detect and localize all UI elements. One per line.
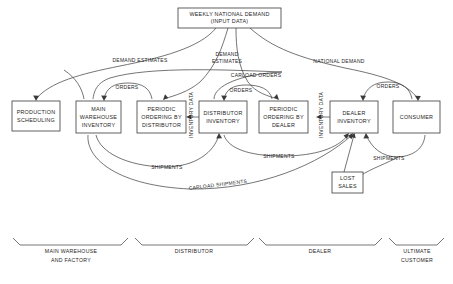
edge-label-carload-orders: CARLOAD ORDERS — [231, 72, 282, 78]
node-periodic-ordering-by-dealer[interactable]: PERIODIC ORDERING BY DEALER — [259, 101, 308, 133]
bracket-line-main-warehouse — [13, 238, 128, 245]
node-main-warehouse-inventory[interactable]: MAIN WAREHOUSE INVENTORY — [76, 101, 121, 133]
node-dealer-inventory[interactable]: DEALER INVENTORY — [330, 101, 378, 133]
edge-label-national-demand: NATIONAL DEMAND — [313, 58, 364, 64]
edge-label-demand-estimates-left: DEMAND ESTIMATES — [112, 57, 167, 63]
edge-label-demand-estimates-center-line2: ESTIMATES — [212, 58, 243, 64]
edge-main-warehouse-up-left — [64, 70, 84, 99]
node-label-main-warehouse-line2: WAREHOUSE — [80, 114, 118, 120]
arrowhead-orders-dealer-inventory — [360, 96, 366, 101]
node-periodic-ordering-by-distributor[interactable]: PERIODIC ORDERING BY DISTRIBUTOR — [137, 101, 186, 133]
edge-label-shipments-2: SHIPMENTS — [263, 153, 295, 159]
edge-label-inventory-data-1: INVENTORY DATA — [188, 91, 194, 138]
arrowhead-shipments-distributor — [216, 133, 222, 139]
edge-label-orders-2: ORDERS — [230, 87, 253, 93]
node-label-consumer: CONSUMER — [400, 114, 433, 120]
arrowhead-orders-main-warehouse — [101, 96, 107, 101]
arrowhead-national-demand-consumer — [415, 96, 421, 101]
node-label-weekly-national-demand-line1: WEEKLY NATIONAL DEMAND — [189, 11, 269, 17]
node-label-lost-sales-line2: SALES — [338, 183, 357, 189]
edge-shipments-warehouse-to-distributor — [96, 135, 219, 167]
node-label-distributor-inventory-line1: DISTRIBUTOR — [203, 110, 242, 116]
bracket-dealer: DEALER — [259, 238, 382, 254]
edge-shipments-dealer-to-consumer — [366, 135, 425, 157]
group-label-dealer: DEALER — [309, 248, 332, 254]
group-label-main-warehouse-line2: AND FACTORY — [51, 257, 91, 263]
diagram-canvas: WEEKLY NATIONAL DEMAND (INPUT DATA) PROD… — [0, 0, 453, 284]
bracket-main-warehouse-and-factory: MAIN WAREHOUSE AND FACTORY — [13, 238, 128, 263]
node-label-periodic-distributor-line3: DISTRIBUTOR — [142, 122, 181, 128]
group-label-distributor: DISTRIBUTOR — [175, 248, 213, 254]
edge-label-carload-shipments: CARLOAD SHIPMENTS — [188, 178, 248, 191]
node-weekly-national-demand[interactable]: WEEKLY NATIONAL DEMAND (INPUT DATA) — [178, 8, 281, 28]
arrowhead-demand-estimates-production — [33, 96, 39, 101]
node-distributor-inventory[interactable]: DISTRIBUTOR INVENTORY — [199, 101, 247, 133]
node-label-dealer-inventory-line1: DEALER — [342, 110, 365, 116]
edge-label-orders-1: ORDERS — [116, 84, 139, 90]
node-label-weekly-national-demand-line2: (INPUT DATA) — [211, 18, 249, 24]
group-label-ultimate-customer-line1: ULTIMATE — [403, 248, 431, 254]
node-consumer[interactable]: CONSUMER — [393, 101, 440, 133]
node-label-periodic-dealer-line3: DEALER — [272, 122, 295, 128]
group-brackets: MAIN WAREHOUSE AND FACTORY DISTRIBUTOR D… — [13, 238, 444, 263]
node-label-periodic-distributor-line2: ORDERING BY — [141, 114, 182, 120]
diagram-nodes: WEEKLY NATIONAL DEMAND (INPUT DATA) PROD… — [12, 8, 440, 193]
bracket-ultimate-customer: ULTIMATE CUSTOMER — [389, 238, 444, 263]
node-label-periodic-dealer-line2: ORDERING BY — [263, 114, 304, 120]
bracket-distributor: DISTRIBUTOR — [135, 238, 254, 254]
node-label-production-scheduling-line2: SCHEDULING — [17, 117, 55, 123]
node-production-scheduling[interactable]: PRODUCTION SCHEDULING — [12, 101, 60, 131]
edge-label-shipments-3: SHIPMENTS — [373, 155, 405, 161]
arrowhead-shipments-consumer — [363, 133, 369, 139]
edge-label-orders-3: ORDERS — [377, 83, 400, 89]
group-label-main-warehouse-line1: MAIN WAREHOUSE — [45, 248, 98, 254]
arrowhead-demand-estimates-dealer — [274, 94, 279, 100]
node-label-periodic-distributor-line1: PERIODIC — [147, 106, 175, 112]
node-label-dealer-inventory-line2: INVENTORY — [337, 118, 371, 124]
node-label-main-warehouse-line1: MAIN — [91, 106, 105, 112]
node-label-periodic-dealer-line1: PERIODIC — [269, 106, 297, 112]
edge-label-inventory-data-2: INVENTORY DATA — [318, 91, 324, 138]
group-label-ultimate-customer-line2: CUSTOMER — [401, 257, 433, 263]
edge-label-shipments-1: SHIPMENTS — [151, 164, 183, 170]
arrowhead-demand-estimates-distributor — [163, 94, 168, 100]
node-lost-sales[interactable]: LOST SALES — [332, 172, 363, 193]
arrowhead-orders-distributor-inventory — [221, 96, 227, 101]
edge-label-demand-estimates-center-line1: DEMAND — [215, 51, 238, 57]
bracket-line-ultimate-customer — [389, 238, 444, 245]
node-label-production-scheduling-line1: PRODUCTION — [17, 109, 56, 115]
bracket-line-distributor — [135, 238, 254, 245]
node-label-distributor-inventory-line2: INVENTORY — [206, 118, 240, 124]
supply-chain-flow-diagram: WEEKLY NATIONAL DEMAND (INPUT DATA) PROD… — [0, 0, 453, 284]
node-label-lost-sales-line1: LOST — [340, 175, 356, 181]
node-label-main-warehouse-line3: INVENTORY — [82, 122, 116, 128]
bracket-line-dealer — [259, 238, 382, 245]
